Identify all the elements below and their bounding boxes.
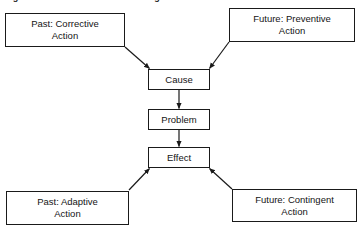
connector-future-preventive-to-cause — [210, 42, 230, 69]
box-future-preventive-action-line2: Action — [279, 25, 305, 36]
box-past-adaptive-action: Past: AdaptiveAction — [6, 191, 129, 225]
box-future-contingent-action-line2: Action — [281, 206, 307, 217]
figure-canvas: Figure 3-1. Cause and Effect Diagram Pas… — [0, 0, 361, 230]
connector-future-contingent-to-effect — [210, 169, 233, 190]
box-future-preventive-action: Future: PreventiveAction — [229, 8, 355, 42]
box-effect: Effect — [148, 147, 210, 168]
box-future-contingent-action-line1: Future: Contingent — [255, 194, 334, 205]
box-past-corrective-action-label: Past: CorrectiveAction — [31, 18, 99, 42]
box-past-adaptive-action-line2: Action — [54, 208, 80, 219]
connector-past-corrective-to-cause — [125, 47, 150, 69]
box-problem: Problem — [148, 109, 210, 130]
connector-past-adaptive-to-effect — [129, 169, 150, 191]
box-effect-label: Effect — [167, 152, 191, 164]
figure-caption: Figure 3-1. Cause and Effect Diagram — [4, 0, 178, 2]
box-past-corrective-action: Past: CorrectiveAction — [5, 13, 125, 47]
box-cause-label: Cause — [165, 74, 192, 86]
box-future-preventive-action-label: Future: PreventiveAction — [253, 13, 331, 37]
box-future-preventive-action-line1: Future: Preventive — [253, 13, 331, 24]
box-future-contingent-action: Future: ContingentAction — [232, 189, 357, 222]
box-past-corrective-action-line1: Past: Corrective — [31, 18, 99, 29]
box-future-contingent-action-label: Future: ContingentAction — [255, 194, 334, 218]
box-past-adaptive-action-line1: Past: Adaptive — [37, 196, 98, 207]
box-past-corrective-action-line2: Action — [52, 30, 78, 41]
box-problem-label: Problem — [161, 114, 196, 126]
box-past-adaptive-action-label: Past: AdaptiveAction — [37, 196, 98, 220]
box-cause: Cause — [148, 69, 210, 90]
